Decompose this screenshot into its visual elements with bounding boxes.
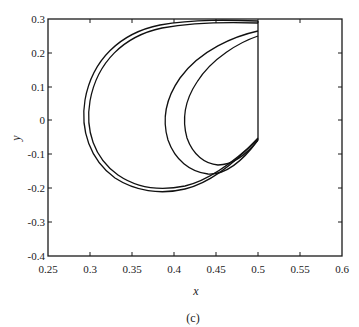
trajectories <box>84 20 258 191</box>
y-tick-label: -0.4 <box>28 250 46 262</box>
x-axis-ticks <box>90 19 300 256</box>
y-tick-label: -0.3 <box>28 216 46 228</box>
x-tick-label: 0.45 <box>206 263 226 275</box>
y-tick-label: -0.2 <box>28 182 45 194</box>
y-tick-label: -0.1 <box>28 148 45 160</box>
x-tick-label: 0.55 <box>290 263 310 275</box>
x-tick-label: 0.35 <box>122 263 142 275</box>
x-tick-label: 0.5 <box>251 263 265 275</box>
x-tick-labels: 0.25 0.3 0.35 0.4 0.45 0.5 0.55 0.6 <box>38 263 349 275</box>
y-tick-label: 0 <box>40 114 46 126</box>
inner-orbit-2 <box>185 36 258 165</box>
y-axis-label: y <box>9 135 23 142</box>
x-tick-label: 0.25 <box>38 263 58 275</box>
figure-caption: (c) <box>186 311 199 325</box>
x-tick-label: 0.4 <box>167 263 181 275</box>
y-tick-labels: 0.3 0.2 0.1 0 -0.1 -0.2 -0.3 -0.4 <box>28 13 46 262</box>
x-tick-label: 0.3 <box>83 263 97 275</box>
y-tick-label: 0.1 <box>31 81 45 93</box>
x-tick-label: 0.6 <box>335 263 349 275</box>
y-tick-label: 0.3 <box>31 13 45 25</box>
x-axis-label: x <box>192 284 199 298</box>
phase-plot: 0.25 0.3 0.35 0.4 0.45 0.5 0.55 0.6 0.3 … <box>0 0 359 327</box>
y-tick-label: 0.2 <box>31 47 45 59</box>
